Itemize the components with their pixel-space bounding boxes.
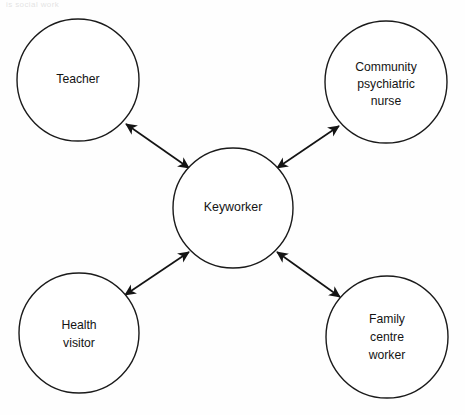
- node-teacher-label-line-1: Teacher: [56, 72, 99, 86]
- connector-cpn-keyworker: [277, 126, 339, 168]
- node-keyworker-label: Keyworker: [204, 200, 263, 214]
- node-keyworker[interactable]: Keyworker: [173, 148, 293, 268]
- node-family-centre-worker-label-line-1: Family: [369, 312, 406, 326]
- node-community-psychiatric-nurse[interactable]: Community psychiatric nurse: [325, 21, 447, 143]
- diagram-canvas: is social work Teacher Community p: [0, 0, 465, 415]
- connector-family-centre-worker-keyworker: [277, 252, 340, 297]
- connector-health-visitor-keyworker: [125, 252, 189, 295]
- node-health-visitor[interactable]: Health visitor: [19, 273, 139, 393]
- node-community-psychiatric-nurse-label-line-3: nurse: [371, 94, 402, 108]
- node-family-centre-worker-label-line-3: worker: [368, 348, 406, 362]
- node-teacher[interactable]: Teacher: [17, 19, 139, 141]
- node-health-visitor-circle[interactable]: [19, 273, 139, 393]
- node-health-visitor-label-line-2: visitor: [63, 336, 95, 350]
- node-health-visitor-label-line-1: Health: [61, 318, 96, 332]
- node-family-centre-worker-label-line-2: centre: [370, 330, 404, 344]
- keyworker-network-diagram: Teacher Community psychiatric nurse Heal…: [0, 0, 465, 415]
- node-community-psychiatric-nurse-label-line-2: psychiatric: [357, 77, 415, 91]
- connector-teacher-keyworker: [126, 124, 189, 168]
- node-family-centre-worker[interactable]: Family centre worker: [326, 276, 448, 398]
- node-community-psychiatric-nurse-label-line-1: Community: [355, 60, 418, 74]
